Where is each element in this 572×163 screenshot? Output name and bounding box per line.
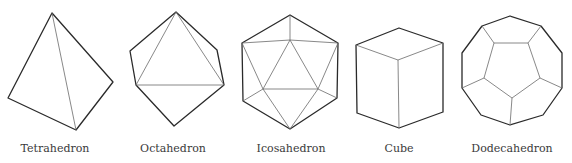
tetrahedron-label: Tetrahedron — [21, 142, 90, 155]
octahedron-label: Octahedron — [140, 142, 206, 155]
dodecahedron-drawing — [462, 16, 562, 125]
icosahedron-drawing — [242, 15, 338, 129]
cube-label: Cube — [384, 142, 413, 155]
dodecahedron-label: Dodecahedron — [471, 142, 552, 155]
tetrahedron-drawing — [8, 13, 113, 130]
cube-drawing — [356, 28, 443, 128]
platonic-solids-figure — [0, 0, 572, 163]
icosahedron-label: Icosahedron — [257, 142, 326, 155]
octahedron-drawing — [130, 12, 224, 126]
